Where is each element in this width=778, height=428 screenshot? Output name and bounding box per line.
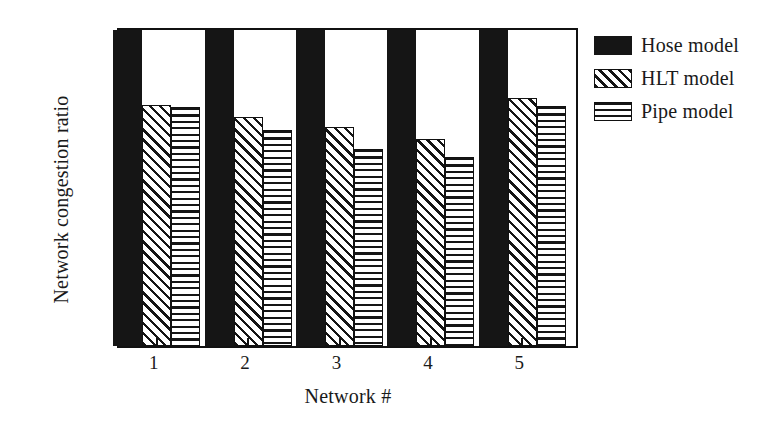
legend-label: HLT model <box>641 67 734 90</box>
bar-hose-5 <box>479 30 508 346</box>
plot-area: 00.20.40.60.81 <box>117 28 578 348</box>
legend-item-pipe: Pipe model <box>594 96 774 126</box>
bar-hlt-2 <box>234 117 263 346</box>
diagonal-hatch-swatch-icon <box>594 69 632 88</box>
bar-hlt-1 <box>142 105 171 346</box>
x-axis-tick-label: 5 <box>499 352 539 374</box>
bar-pipe-2 <box>263 130 292 346</box>
legend-label: Hose model <box>641 34 739 57</box>
bar-pipe-1 <box>171 107 200 346</box>
y-axis-title: Network congestion ratio <box>50 35 73 365</box>
bar-hose-1 <box>113 30 142 346</box>
x-axis-tick <box>247 338 249 346</box>
bar-hose-4 <box>387 30 416 346</box>
chart-legend: Hose model HLT model Pipe model <box>594 30 774 129</box>
x-axis-tick-label: 4 <box>408 352 448 374</box>
bar-hose-3 <box>296 30 325 346</box>
legend-item-hlt: HLT model <box>594 63 774 93</box>
bar-chart-figure: Network congestion ratio 00.20.40.60.81 … <box>0 0 778 428</box>
bar-hlt-4 <box>416 139 445 346</box>
x-axis-tick <box>430 338 432 346</box>
x-axis-tick <box>156 338 158 346</box>
bar-pipe-3 <box>354 149 383 347</box>
x-axis-tick-label: 1 <box>134 352 174 374</box>
solid-black-swatch-icon <box>594 36 632 55</box>
legend-item-hose: Hose model <box>594 30 774 60</box>
horizontal-hatch-swatch-icon <box>594 102 632 121</box>
x-axis-title: Network # <box>118 385 578 408</box>
bar-hose-2 <box>205 30 234 346</box>
x-axis-tick-label: 2 <box>225 352 265 374</box>
bar-hlt-3 <box>325 127 354 346</box>
legend-label: Pipe model <box>641 100 734 123</box>
bar-hlt-5 <box>508 98 537 346</box>
x-axis-tick <box>339 338 341 346</box>
plot-inner: 00.20.40.60.81 <box>119 30 576 346</box>
bar-pipe-4 <box>445 157 474 346</box>
x-axis-tick-label: 3 <box>317 352 357 374</box>
x-axis-tick <box>521 338 523 346</box>
bar-pipe-5 <box>537 106 566 346</box>
